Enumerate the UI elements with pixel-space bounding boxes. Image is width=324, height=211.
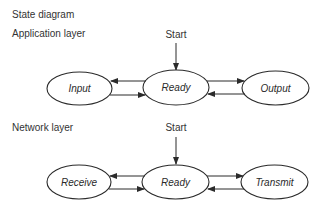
state-output-label: Output [260, 83, 291, 94]
network-start-label: Start [165, 122, 186, 133]
state-input-label: Input [68, 83, 91, 94]
state-diagram-canvas: Start Input Ready Output Start Receive R… [0, 0, 324, 211]
network-layer-group: Start Receive Ready Transmit [47, 122, 308, 199]
state-transmit-label: Transmit [255, 177, 294, 188]
state-ready-application-label: Ready [162, 82, 192, 93]
state-ready-network-label: Ready [161, 177, 191, 188]
application-layer-group: Start Input Ready Output [47, 29, 309, 105]
application-start-label: Start [165, 29, 186, 40]
state-receive-label: Receive [61, 177, 98, 188]
